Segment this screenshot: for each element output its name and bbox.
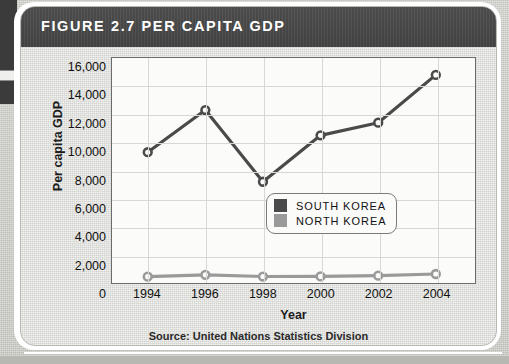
figure-header-bar: FIGURE 2.7 PER CAPITA GDP (21, 7, 496, 47)
legend-entry: NORTH KOREA (274, 213, 386, 228)
vertical-gridline (206, 58, 207, 283)
figure-title: FIGURE 2.7 PER CAPITA GDP (41, 18, 286, 34)
chart-legend: SOUTH KOREANORTH KOREA (266, 193, 397, 234)
vertical-gridline (380, 58, 381, 283)
horizontal-gridline (112, 115, 475, 116)
vertical-gridline (264, 58, 265, 283)
y-tick-label: 2,000 (75, 259, 106, 273)
y-tick-label: 6,000 (75, 202, 106, 216)
series-line (148, 75, 436, 182)
series-lines (112, 58, 475, 283)
x-tick-label: 1996 (191, 287, 219, 301)
legend-entry: SOUTH KOREA (274, 198, 386, 213)
vertical-gridline (148, 58, 149, 283)
legend-label: SOUTH KOREA (296, 200, 386, 212)
legend-swatch-icon (274, 199, 287, 212)
data-point-marker (317, 273, 325, 281)
y-tick-label: 8,000 (75, 174, 106, 188)
x-tick-label: 2004 (423, 287, 451, 301)
x-tick-label: 1994 (133, 287, 161, 301)
legend-label: NORTH KOREA (296, 215, 386, 227)
source-note: Source: United Nations Statistics Divisi… (21, 330, 496, 342)
page-rule-lower (0, 356, 509, 364)
data-point-marker (374, 272, 382, 280)
horizontal-gridline (112, 86, 475, 87)
y-tick-label: 4,000 (75, 230, 106, 244)
y-axis-tick-labels: 16,00014,00012,00010,0008,0006,0004,0002… (38, 57, 106, 284)
chart-body: Per capita GDP 16,00014,00012,00010,0008… (21, 47, 496, 345)
x-axis-tick-labels: 199419961998200020022004 (111, 287, 476, 305)
y-tick-label: 14,000 (68, 88, 106, 102)
y-tick-label: 16,000 (68, 60, 106, 74)
x-tick-label: 2000 (307, 287, 335, 301)
horizontal-gridline (112, 257, 475, 258)
horizontal-gridline (112, 143, 475, 144)
y-tick-label: 0 (99, 287, 106, 301)
y-tick-label: 12,000 (68, 117, 106, 131)
page-rule-upper (24, 352, 502, 354)
vertical-gridline (438, 58, 439, 283)
plot-area (111, 57, 476, 284)
legend-swatch-icon (274, 214, 287, 227)
data-point-marker (317, 131, 325, 139)
horizontal-gridline (112, 172, 475, 173)
data-point-marker (374, 119, 382, 127)
x-tick-label: 2002 (365, 287, 393, 301)
series-line (148, 274, 436, 277)
vertical-gridline (322, 58, 323, 283)
y-tick-label: 10,000 (68, 145, 106, 159)
x-axis-label: Year (111, 308, 476, 322)
x-tick-label: 1998 (249, 287, 277, 301)
figure-panel: FIGURE 2.7 PER CAPITA GDP Per capita GDP… (20, 6, 497, 346)
